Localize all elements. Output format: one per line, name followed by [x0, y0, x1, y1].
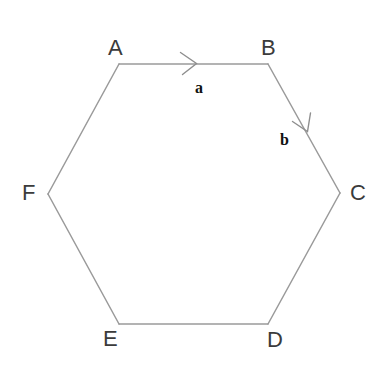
edge-f-a [48, 64, 119, 194]
hexagon-canvas [0, 0, 383, 374]
vertex-label-b: B [261, 37, 276, 59]
vector-label-b: b [280, 132, 289, 148]
vertex-label-e: E [103, 328, 118, 350]
vector-label-a: a [195, 80, 203, 96]
edge-c-d [268, 193, 340, 324]
vertex-label-d: D [267, 329, 283, 351]
edge-e-f [48, 194, 119, 324]
vector-b-arrowhead-icon [293, 113, 311, 132]
hexagon-diagram: A B C D E F a b [0, 0, 383, 374]
vertex-label-a: A [108, 37, 123, 59]
hexagon-outline [48, 64, 340, 324]
vertex-label-c: C [350, 182, 366, 204]
vertex-label-f: F [22, 182, 35, 204]
